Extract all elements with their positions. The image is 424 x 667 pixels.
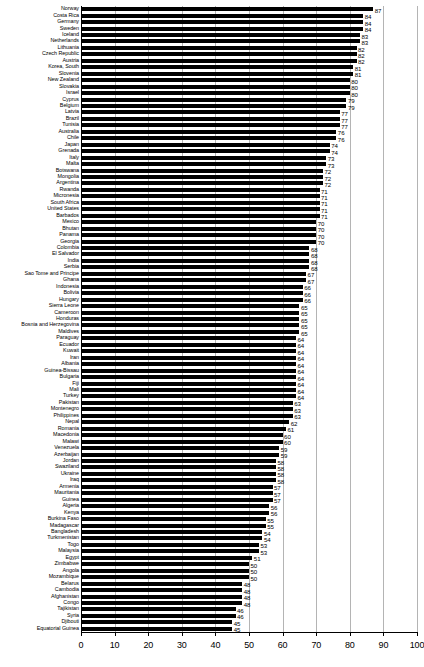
bar — [81, 323, 299, 327]
bar-chart: 0102030405060708090100Norway87Costa Rica… — [0, 0, 424, 667]
bar — [81, 433, 283, 437]
bar — [81, 304, 299, 308]
bar — [81, 52, 357, 56]
bar-value-label: 53 — [261, 550, 268, 556]
bar — [81, 130, 336, 134]
x-axis-tick — [316, 632, 317, 636]
x-axis-tick-label: 50 — [244, 640, 254, 650]
x-axis-tick-label: 30 — [177, 640, 187, 650]
bar — [81, 343, 296, 347]
bar — [81, 194, 320, 198]
bar — [81, 72, 353, 76]
bar — [81, 175, 323, 179]
x-axis-tick — [417, 632, 418, 636]
x-axis-tick-label: 20 — [143, 640, 153, 650]
bar — [81, 104, 346, 108]
bar — [81, 627, 232, 631]
x-axis-tick — [249, 632, 250, 636]
bar — [81, 427, 286, 431]
bar — [81, 498, 273, 502]
grid-line — [383, 6, 384, 632]
x-axis-tick-label: 0 — [79, 640, 84, 650]
x-axis-tick — [215, 632, 216, 636]
bar-value-label: 70 — [318, 240, 325, 246]
bar — [81, 362, 296, 366]
bar — [81, 478, 276, 482]
bar — [81, 246, 309, 250]
bar — [81, 46, 357, 50]
bar — [81, 614, 236, 618]
bar — [81, 110, 340, 114]
bar — [81, 504, 269, 508]
bar — [81, 14, 363, 18]
bar — [81, 543, 259, 547]
bar — [81, 453, 279, 457]
bar — [81, 285, 303, 289]
bar — [81, 188, 320, 192]
bar — [81, 85, 350, 89]
bar — [81, 414, 293, 418]
bar — [81, 369, 296, 373]
bar — [81, 27, 363, 31]
bar — [81, 569, 249, 573]
bar — [81, 298, 303, 302]
x-axis-tick-label: 10 — [110, 640, 120, 650]
bar — [81, 117, 340, 121]
x-axis-tick-label: 70 — [311, 640, 321, 650]
bar — [81, 607, 236, 611]
bar — [81, 220, 316, 224]
bar — [81, 620, 232, 624]
bar — [81, 143, 330, 147]
bar — [81, 549, 259, 553]
bar-value-label: 50 — [251, 576, 258, 582]
plot-area: 0102030405060708090100Norway87Costa Rica… — [0, 0, 424, 667]
bar — [81, 181, 323, 185]
bar — [81, 233, 316, 237]
bar — [81, 595, 242, 599]
bar — [81, 7, 373, 11]
category-label: Equatorial Guinea — [37, 626, 79, 631]
x-axis-tick-label: 40 — [211, 640, 221, 650]
bar — [81, 78, 350, 82]
bar — [81, 491, 273, 495]
grid-line — [417, 6, 418, 632]
bar — [81, 149, 330, 153]
bar — [81, 601, 242, 605]
x-axis-tick — [383, 632, 384, 636]
bar — [81, 446, 279, 450]
x-axis-tick — [350, 632, 351, 636]
bar — [81, 259, 309, 263]
bar — [81, 485, 273, 489]
bar-value-label: 45 — [234, 627, 241, 633]
bar — [81, 162, 326, 166]
bar — [81, 375, 296, 379]
bar — [81, 349, 296, 353]
bar — [81, 575, 249, 579]
x-axis-tick — [283, 632, 284, 636]
bar — [81, 265, 309, 269]
bar — [81, 291, 303, 295]
bar-value-label: 48 — [244, 602, 251, 608]
x-axis-tick — [115, 632, 116, 636]
bar — [81, 330, 299, 334]
bar — [81, 394, 296, 398]
bar — [81, 252, 309, 256]
bar — [81, 336, 296, 340]
bar — [81, 517, 266, 521]
bar — [81, 459, 276, 463]
bar — [81, 562, 249, 566]
bar — [81, 530, 262, 534]
bar — [81, 317, 299, 321]
bar — [81, 407, 293, 411]
bar — [81, 440, 283, 444]
x-axis-tick-label: 80 — [345, 640, 355, 650]
x-axis-tick-label: 100 — [410, 640, 424, 650]
bar — [81, 59, 357, 63]
bar — [81, 272, 306, 276]
bar — [81, 524, 266, 528]
bar-value-label: 87 — [375, 8, 382, 14]
x-axis-tick — [148, 632, 149, 636]
bar — [81, 98, 346, 102]
x-axis-tick-label: 90 — [379, 640, 389, 650]
bar-value-label: 79 — [348, 105, 355, 111]
